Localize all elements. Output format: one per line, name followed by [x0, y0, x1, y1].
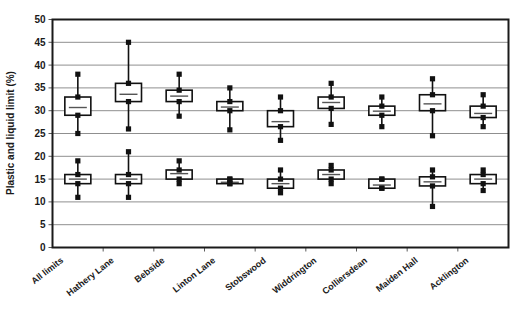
q1-point [278, 186, 283, 191]
min-point [329, 181, 334, 186]
q1-point [177, 177, 182, 182]
max-point [379, 94, 384, 99]
q3-point [329, 167, 334, 172]
q3-point [430, 174, 435, 179]
q1-point [481, 115, 486, 120]
q1-point [177, 99, 182, 104]
min-point [75, 195, 80, 200]
q1-point [329, 177, 334, 182]
y-tick-label: 35 [34, 82, 46, 93]
min-point [430, 204, 435, 209]
q3-point [126, 172, 131, 177]
min-point [379, 124, 384, 129]
max-point [430, 167, 435, 172]
y-tick-label: 5 [40, 219, 46, 230]
q1-point [430, 183, 435, 188]
min-point [177, 114, 182, 119]
y-tick-label: 10 [34, 196, 46, 207]
q1-point [75, 113, 80, 118]
y-axis-title: Plastic and liquid limit (%) [5, 71, 16, 195]
q1-point [126, 181, 131, 186]
min-point [278, 138, 283, 143]
q3-point [227, 177, 232, 182]
min-point [177, 181, 182, 186]
y-tick-label: 50 [34, 14, 46, 25]
q3-point [227, 99, 232, 104]
min-point [430, 133, 435, 138]
q1-point [430, 108, 435, 113]
min-point [481, 188, 486, 193]
q1-point [75, 181, 80, 186]
min-point [227, 181, 232, 186]
max-point [329, 81, 334, 86]
y-tick-label: 0 [40, 242, 46, 253]
q3-point [75, 172, 80, 177]
max-point [126, 149, 131, 154]
q3-point [177, 88, 182, 93]
y-axis-title-text: Plastic and liquid limit (%) [5, 71, 16, 195]
max-point [329, 163, 334, 168]
q3-point [379, 104, 384, 109]
y-tick-label: 20 [34, 151, 46, 162]
max-point [227, 85, 232, 90]
min-point [75, 131, 80, 136]
min-point [379, 186, 384, 191]
min-point [126, 126, 131, 131]
y-tick-label: 15 [34, 174, 46, 185]
min-point [278, 190, 283, 195]
min-point [126, 195, 131, 200]
q3-point [481, 172, 486, 177]
y-tick-label: 45 [34, 37, 46, 48]
boxplot [369, 177, 395, 191]
q3-point [481, 104, 486, 109]
min-point [227, 127, 232, 132]
y-tick-label: 40 [34, 60, 46, 71]
q3-point [329, 94, 334, 99]
q3-point [126, 81, 131, 86]
q3-point [430, 92, 435, 97]
q1-point [126, 99, 131, 104]
max-point [481, 92, 486, 97]
q3-point [278, 108, 283, 113]
max-point [126, 40, 131, 45]
max-point [481, 167, 486, 172]
min-point [329, 122, 334, 127]
q3-point [379, 177, 384, 182]
max-point [430, 76, 435, 81]
box [116, 83, 142, 101]
y-tick-label: 25 [34, 128, 46, 139]
q1-point [481, 181, 486, 186]
q3-point [177, 167, 182, 172]
boxplot-chart: 05101520253035404550 All limitsHathery L… [0, 0, 527, 333]
q1-point [379, 113, 384, 118]
q3-point [278, 177, 283, 182]
q3-point [75, 94, 80, 99]
q1-point [278, 124, 283, 129]
max-point [278, 94, 283, 99]
max-point [177, 158, 182, 163]
chart-canvas: 05101520253035404550 All limitsHathery L… [0, 0, 527, 333]
max-point [75, 72, 80, 77]
min-point [481, 124, 486, 129]
max-point [278, 167, 283, 172]
box [65, 97, 91, 115]
q1-point [227, 108, 232, 113]
max-point [75, 158, 80, 163]
max-point [177, 72, 182, 77]
q1-point [329, 106, 334, 111]
y-tick-label: 30 [34, 105, 46, 116]
